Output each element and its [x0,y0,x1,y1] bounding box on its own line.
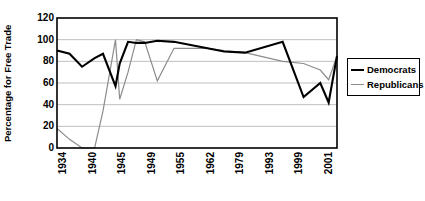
x-tick-label: 1999 [294,152,304,174]
legend-line-icon-democrats [351,69,364,71]
x-tick-label: 1962 [206,152,216,174]
legend: Democrats Republicans [347,58,420,96]
x-tick-label: 1993 [265,152,275,174]
x-tick-label: 1949 [147,152,157,174]
legend-line-icon-republicans [351,84,364,85]
legend-label-republicans: Republicans [367,80,424,90]
x-tick-label: 1979 [235,152,245,174]
x-tick-label: 1955 [176,152,186,174]
x-tick-label: 2001 [324,152,334,174]
x-tick-label: 1945 [117,152,127,174]
x-tick-label: 1934 [58,152,68,174]
free-trade-line-chart: Percentage for Free Trade 12010080604020… [0,0,425,201]
legend-item-republicans: Republicans [350,77,417,92]
legend-item-democrats: Democrats [350,62,417,77]
x-axis-tick-labels: 1934194019451949195519621979199319992001 [0,0,425,201]
x-tick-label: 1940 [88,152,98,174]
legend-label-democrats: Democrats [367,65,416,75]
